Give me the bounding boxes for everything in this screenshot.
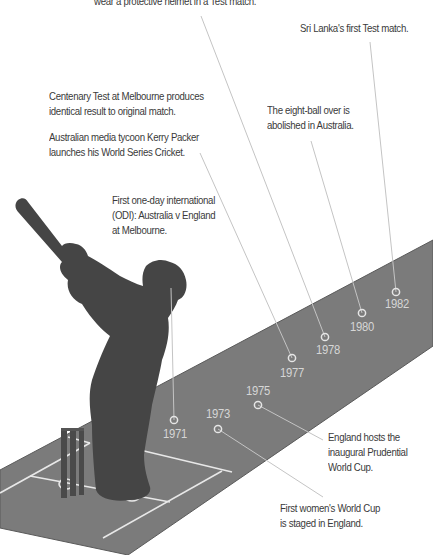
connector-line-1977: [200, 153, 292, 358]
note-1978: wear a protective helmet in a Test match…: [94, 0, 256, 9]
note-1977-centenary: Centenary Test at Melbourne produces ide…: [49, 89, 204, 119]
year-label-1980: 1980: [350, 320, 374, 334]
year-label-1977: 1977: [280, 366, 304, 380]
connector-line-1978: [201, 16, 325, 337]
year-label-1971: 1971: [163, 427, 187, 441]
note-1982: Sri Lanka's first Test match.: [300, 21, 408, 36]
note-1980: The eight-ball over is abolished in Aust…: [267, 103, 354, 133]
wicket-stumps: [61, 428, 84, 498]
year-label-1975: 1975: [246, 384, 270, 398]
year-label-1982: 1982: [385, 297, 409, 311]
cricket-timeline-infographic: wear a protective helmet in a Test match…: [0, 0, 433, 555]
year-label-1973: 1973: [206, 407, 230, 421]
note-1975: England hosts the inaugural Prudential W…: [328, 430, 407, 475]
year-label-1978: 1978: [316, 343, 340, 357]
connector-line-1980: [311, 141, 362, 313]
note-1973: First women's World Cup is staged in Eng…: [280, 501, 380, 531]
note-1971: First one-day international (ODI): Austr…: [112, 193, 215, 238]
note-1977-packer: Australian media tycoon Kerry Packer lau…: [49, 130, 199, 160]
connector-line-1982: [370, 42, 396, 292]
